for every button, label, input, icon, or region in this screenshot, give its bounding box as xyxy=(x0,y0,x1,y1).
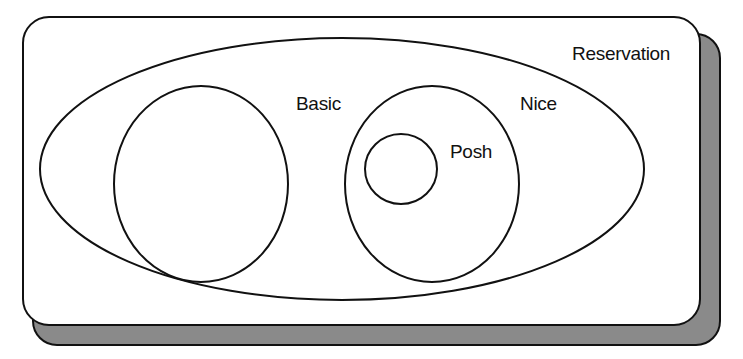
reservation-label: Reservation xyxy=(572,43,670,64)
posh-label: Posh xyxy=(450,141,492,162)
nice-label: Nice xyxy=(520,93,557,114)
basic-label: Basic xyxy=(296,93,341,114)
reservation-diagram: Reservation Basic Nice Posh xyxy=(0,0,743,359)
